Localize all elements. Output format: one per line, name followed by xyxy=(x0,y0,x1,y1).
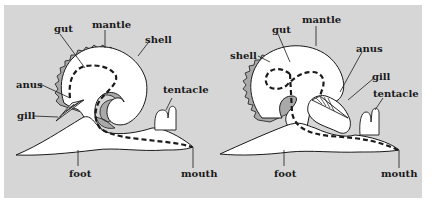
right-label-shell: shell xyxy=(230,51,257,61)
right-label-mantle: mantle xyxy=(302,15,341,25)
right-label-tentacle: tentacle xyxy=(373,89,419,99)
left-tentacle xyxy=(155,106,176,130)
right-label-anus: anus xyxy=(356,44,383,54)
left-label-gill: gill xyxy=(17,111,35,121)
right-label-gill: gill xyxy=(372,72,390,82)
left-label-gut: gut xyxy=(54,24,73,34)
left-label-mouth: mouth xyxy=(181,169,217,179)
right-label-foot: foot xyxy=(274,169,296,179)
left-label-mantle: mantle xyxy=(92,20,131,30)
right-tentacle xyxy=(360,108,379,135)
left-label-shell: shell xyxy=(145,35,172,45)
right-label-gut: gut xyxy=(272,25,291,35)
left-label-foot: foot xyxy=(69,169,91,179)
left-label-tentacle: tentacle xyxy=(163,85,209,95)
left-snail xyxy=(16,30,193,168)
left-label-anus: anus xyxy=(16,80,43,90)
right-label-mouth: mouth xyxy=(381,169,417,179)
